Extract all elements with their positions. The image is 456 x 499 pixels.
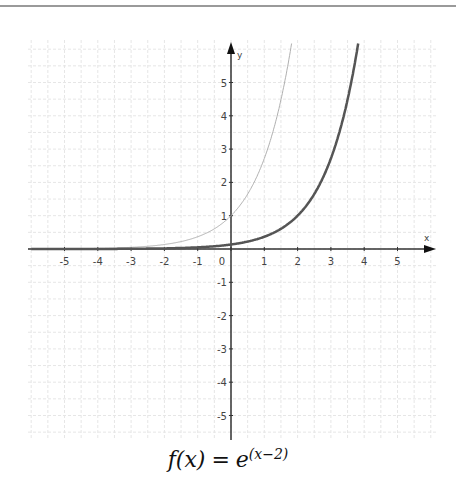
y-axis-label: y	[237, 50, 243, 60]
y-tick-label: -2	[217, 311, 227, 322]
y-tick-label: 4	[221, 111, 227, 122]
x-tick-label: -3	[126, 256, 136, 267]
x-tick-label: -1	[193, 256, 203, 267]
x-tick-label: 1	[261, 256, 267, 267]
y-tick-label: 2	[221, 177, 227, 188]
y-tick-label: -4	[217, 377, 227, 388]
x-tick-label: -2	[159, 256, 169, 267]
x-tick-label: 0	[219, 256, 225, 267]
y-tick-label: -5	[217, 411, 227, 422]
y-axis-arrow-icon	[227, 42, 235, 54]
x-tick-label: 5	[394, 256, 400, 267]
axes: xy	[28, 42, 436, 440]
y-tick-label: 5	[221, 78, 227, 89]
x-tick-label: 3	[328, 256, 334, 267]
grid-lines	[28, 40, 436, 440]
y-tick-label: -1	[217, 277, 227, 288]
x-tick-label: 4	[361, 256, 367, 267]
y-tick-label: 3	[221, 144, 227, 155]
curve-exp-x	[31, 44, 291, 249]
y-tick-label: -3	[217, 344, 227, 355]
x-tick-label: -5	[60, 256, 70, 267]
caption-lhs: f(x)	[168, 447, 206, 472]
caption-base: e	[236, 447, 249, 472]
curves	[31, 44, 358, 250]
caption-exponent: (x−2)	[249, 446, 288, 462]
x-axis-label: x	[424, 233, 430, 243]
caption-equals: =	[211, 447, 229, 472]
curve-exp-x-minus-2	[31, 44, 358, 250]
x-axis-arrow-icon	[424, 245, 436, 253]
x-tick-label: -4	[93, 256, 103, 267]
x-tick-label: 2	[294, 256, 300, 267]
function-graph: xy -5-4-3-2-1012345-5-4-3-2-112345	[0, 0, 456, 499]
function-caption: f(x)=e(x−2)	[0, 446, 456, 472]
